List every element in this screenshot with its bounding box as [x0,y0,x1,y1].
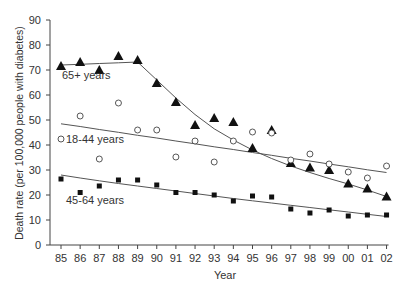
y-tick-label: 70 [29,64,41,76]
x-tick-label: 85 [55,252,67,264]
square-marker [212,193,217,198]
series-labels: 65+ years18-44 years45-64 years [62,69,125,206]
circle-marker [115,100,121,106]
series-label: 18-44 years [66,133,125,145]
trend-line [61,124,387,173]
circle-marker [250,129,256,135]
x-tick-label: 91 [170,252,182,264]
x-tick-label: 86 [74,252,86,264]
triangle-marker [190,120,200,129]
x-axis-title: Year [214,269,237,281]
square-marker [97,184,102,189]
circle-marker [230,138,236,144]
square-marker [384,213,389,218]
square-marker [231,199,236,204]
circle-marker [269,130,275,136]
square-marker [346,214,351,219]
y-tick-label: 90 [29,14,41,26]
y-tick-label: 10 [29,214,41,226]
circle-marker [154,127,160,133]
x-tick-label: 98 [304,252,316,264]
x-tick-label: 93 [208,252,220,264]
triangle-marker [133,55,143,64]
x-tick-label: 01 [361,252,373,264]
triangle-marker [248,143,258,152]
x-tick-label: 88 [112,252,124,264]
square-marker [288,207,293,212]
trend-line [61,62,387,197]
x-tick-label: 90 [151,252,163,264]
circle-marker [288,157,294,163]
x-tick-label: 89 [131,252,143,264]
square-marker [154,183,159,188]
x-tick-label: 92 [189,252,201,264]
square-marker [269,195,274,200]
square-marker [250,194,255,199]
circle-marker [326,161,332,167]
x-tick-label: 02 [380,252,392,264]
triangle-marker [75,57,85,66]
triangle-marker [152,78,162,87]
circle-marker [345,169,351,175]
circle-marker [364,175,370,181]
square-marker [135,178,140,183]
y-axis-title: Death rate (per 100,000 people with diab… [13,26,25,240]
triangle-marker [362,184,372,193]
y-tick-label: 40 [29,139,41,151]
square-marker [193,190,198,195]
square-marker [59,177,64,182]
line-chart: 0102030405060708090858687888990919293949… [0,0,412,297]
square-marker [307,211,312,216]
x-tick-label: 99 [323,252,335,264]
series-label: 65+ years [62,69,111,81]
y-tick-label: 30 [29,164,41,176]
triangle-marker [209,113,219,122]
x-tick-label: 96 [266,252,278,264]
triangle-marker [382,192,392,201]
square-marker [116,178,121,183]
x-tick-label: 00 [342,252,354,264]
x-tick-label: 87 [93,252,105,264]
y-tick-label: 0 [35,239,41,251]
square-marker [173,190,178,195]
circle-marker [173,154,179,160]
x-tick-label: 97 [285,252,297,264]
circle-marker [192,138,198,144]
triangle-marker [305,163,315,172]
y-tick-label: 20 [29,189,41,201]
circle-marker [135,127,141,133]
circle-marker [58,136,64,142]
triangle-marker [228,117,238,126]
circle-marker [384,163,390,169]
square-marker [327,208,332,213]
circle-marker [307,151,313,157]
x-tick-label: 94 [227,252,239,264]
y-tick-label: 60 [29,89,41,101]
triangle-marker [113,51,123,60]
circle-marker [77,113,83,119]
series-label: 45-64 years [66,194,125,206]
square-marker [365,213,370,218]
y-tick-label: 80 [29,39,41,51]
circle-marker [96,156,102,162]
circle-marker [211,159,217,165]
x-tick-label: 95 [246,252,258,264]
y-tick-label: 50 [29,114,41,126]
